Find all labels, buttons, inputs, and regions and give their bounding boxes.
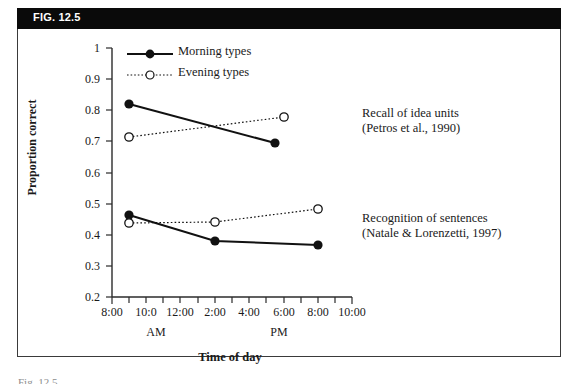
y-tick-label: 0.3 [66,259,100,274]
period-label-am: AM [136,325,176,340]
x-axis-title: Time of day [160,350,300,365]
y-tick-label: 0.8 [66,103,100,118]
series-evening-recall [125,113,288,141]
annotation-recognition: Recognition of sentences (Natale & Loren… [362,211,502,241]
figure-caption-partial: Fig. 12.5 ... [18,376,68,384]
legend-label-evening: Evening types [174,65,249,80]
y-tick-label: 0.9 [66,72,100,87]
legend-item-morning: Morning types [126,41,286,62]
x-tick-label: 10:00 [329,305,375,320]
y-axis-title: Proportion correct [25,78,40,218]
series-morning-recognition [124,210,322,249]
annotation-recall-line2: (Petros et al., 1990) [362,121,460,136]
chart-plot-area: 1 0.9 0.8 0.7 0.6 0.5 0.4 0.3 0.2 8:00 1… [0,0,578,384]
series-morning-recall [124,99,279,147]
legend-item-evening: Evening types [126,62,286,83]
y-tick-label: 0.7 [66,134,100,149]
series-evening-recognition [125,205,322,227]
annotation-recall-line1: Recall of idea units [362,106,460,121]
x-axis-ticks [112,297,352,304]
period-label-pm: PM [259,325,299,340]
y-tick-label: 0.2 [66,290,100,305]
annotation-recognition-line2: (Natale & Lorenzetti, 1997) [362,226,502,241]
legend-marker-filled-circle-icon [126,46,174,58]
legend-marker-open-circle-icon [126,67,174,79]
chart-legend: Morning types Evening types [126,41,286,83]
legend-label-morning: Morning types [174,44,251,59]
annotation-recall: Recall of idea units (Petros et al., 199… [362,106,460,136]
y-axis-ticks [106,48,112,297]
y-tick-label: 0.4 [66,228,100,243]
annotation-recognition-line1: Recognition of sentences [362,211,502,226]
y-tick-label: 0.6 [66,166,100,181]
y-tick-label: 1 [66,41,100,56]
y-tick-label: 0.5 [66,197,100,212]
